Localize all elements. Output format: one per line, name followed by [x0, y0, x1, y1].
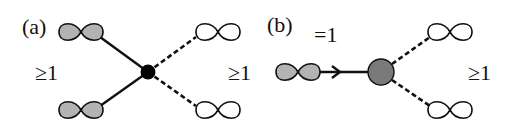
shaded-orbital-icon	[59, 102, 103, 119]
solid-edge-bottom-left	[100, 72, 148, 106]
black-vertex-icon	[141, 65, 156, 80]
dashed-edge-bottom-right	[148, 72, 196, 106]
panel-b-label: (b)	[267, 12, 293, 37]
shaded-orbital-icon	[276, 64, 320, 81]
open-orbital-icon	[428, 102, 472, 119]
shaded-orbital-icon	[59, 24, 103, 41]
solid-edge-top-left	[100, 37, 148, 72]
panel-a-label: (a)	[22, 14, 46, 39]
right-count-label: ≥1	[228, 60, 251, 85]
open-orbital-icon	[428, 24, 472, 41]
left-count-label: ≥1	[35, 60, 58, 85]
dashed-edge-bottom-right	[392, 80, 430, 106]
open-orbital-icon	[196, 24, 240, 41]
gray-vertex-icon	[368, 59, 394, 85]
right-count-label: ≥1	[468, 60, 491, 85]
diagram-canvas: (a) ≥1 ≥1 (b) =1 ≥1	[0, 0, 520, 132]
top-count-label: =1	[314, 22, 337, 47]
dashed-edge-top-right	[392, 37, 430, 64]
dashed-edge-top-right	[148, 37, 196, 72]
panel-a: (a) ≥1 ≥1	[22, 14, 251, 118]
diagram-svg: (a) ≥1 ≥1 (b) =1 ≥1	[0, 0, 520, 132]
panel-b: (b) =1 ≥1	[267, 12, 491, 118]
open-orbital-icon	[196, 102, 240, 119]
